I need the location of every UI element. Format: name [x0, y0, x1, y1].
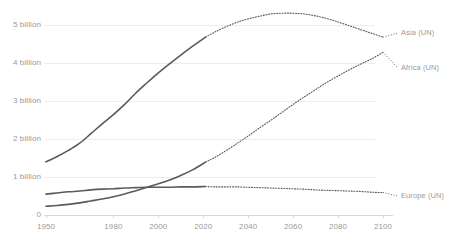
- population-line-chart: 01 billion2 billion3 billion4 billion5 b…: [0, 0, 456, 247]
- x-axis-tick-label: 2000: [138, 222, 178, 231]
- gridlines-group: [45, 25, 375, 177]
- series-label-africa-un: Africa (UN): [401, 63, 439, 72]
- x-axis-tick-label: 2100: [363, 222, 403, 231]
- x-axis-tick-label: 2080: [318, 222, 358, 231]
- series-label-europe-un: Europe (UN): [401, 191, 444, 200]
- y-axis-tick-label: 4 billion: [13, 58, 41, 67]
- series-line-europe-un-projection: [206, 187, 383, 193]
- leader-line-asia-un: [383, 33, 398, 37]
- leader-line-africa-un: [383, 52, 398, 68]
- x-axis-tick-label: 1980: [93, 222, 133, 231]
- x-axis-tick-label: 1950: [26, 222, 66, 231]
- series-line-africa-un-historical: [46, 162, 206, 206]
- y-axis-tick-label: 1 billion: [13, 172, 41, 181]
- x-axis-tick-label: 2060: [273, 222, 313, 231]
- series-line-africa-un-projection: [206, 52, 383, 162]
- series-leader-lines: [383, 33, 398, 196]
- y-axis-tick-label: 2 billion: [13, 134, 41, 143]
- y-axis-tick-label: 3 billion: [13, 96, 41, 105]
- x-axis-tick-label: 2040: [228, 222, 268, 231]
- chart-plot-area: [0, 0, 456, 247]
- leader-line-europe-un: [383, 193, 398, 196]
- y-axis-tick-label: 0: [36, 210, 41, 219]
- x-axis-tick-label: 2020: [183, 222, 223, 231]
- series-line-asia-un-historical: [46, 37, 206, 162]
- series-label-asia-un: Asia (UN): [401, 28, 434, 37]
- y-axis-tick-label: 5 billion: [13, 20, 41, 29]
